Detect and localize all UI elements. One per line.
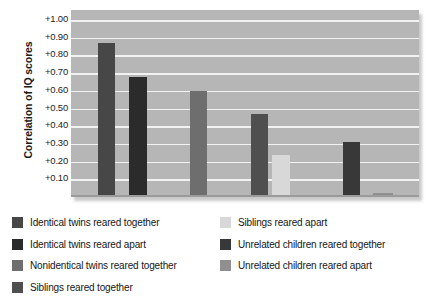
gridline [71,126,419,128]
legend-swatch-icon [12,239,23,250]
legend-label: Identical twins reared apart [30,239,146,250]
y-tick-label: +0.40 [45,119,68,130]
legend-swatch-icon [220,217,231,228]
chart-legend: Identical twins reared togetherIdentical… [12,213,430,297]
plot-area-wrapper [71,10,419,197]
bar [190,91,207,197]
y-tick-label: +0.30 [45,136,68,147]
legend-swatch-icon [12,260,23,271]
legend-column-right: Siblings reared apartUnrelated children … [220,213,430,278]
bar [272,155,290,197]
bar [343,142,360,197]
bar [251,114,268,197]
legend-item: Identical twins reared apart [12,235,217,254]
gridline [71,38,419,40]
legend-label: Siblings reared together [30,282,133,293]
legend-label: Siblings reared apart [238,217,327,228]
gridline [71,109,419,111]
bar [129,77,147,197]
legend-label: Identical twins reared together [30,217,159,228]
legend-label: Unrelated children reared apart [238,260,372,271]
gridline [71,73,419,75]
y-tick-label: +0.90 [45,30,68,41]
y-axis-tick-labels: +1.00+0.90+0.80+0.70+0.60+0.50+0.40+0.30… [28,8,68,198]
y-tick-label: +0.60 [45,83,68,94]
x-axis-baseline [71,195,419,197]
gridline [71,20,419,22]
y-tick-label: +1.00 [45,13,68,24]
legend-item: Siblings reared together [12,278,217,297]
y-tick-label: +0.50 [45,101,68,112]
gridline [71,55,419,57]
legend-swatch-icon [12,282,23,293]
legend-swatch-icon [12,217,23,228]
iq-correlation-bar-chart: Correlation of IQ scores +1.00+0.90+0.80… [0,0,436,306]
legend-swatch-icon [220,260,231,271]
plot-area [71,10,419,197]
bar [98,43,115,197]
legend-label: Unrelated children reared together [238,239,385,250]
legend-column-left: Identical twins reared togetherIdentical… [12,213,217,299]
legend-item: Identical twins reared together [12,213,217,232]
legend-item: Unrelated children reared together [220,235,430,254]
gridline [71,91,419,93]
legend-item: Nonidentical twins reared together [12,256,217,275]
gridline [71,144,419,146]
legend-swatch-icon [220,239,231,250]
y-tick-label: +0.20 [45,154,68,165]
y-tick-label: +0.10 [45,172,68,183]
legend-item: Siblings reared apart [220,213,430,232]
legend-item: Unrelated children reared apart [220,256,430,275]
legend-label: Nonidentical twins reared together [30,260,177,271]
y-tick-label: +0.80 [45,48,68,59]
y-tick-label: +0.70 [45,66,68,77]
gridline [71,162,419,164]
gridline [71,179,419,181]
